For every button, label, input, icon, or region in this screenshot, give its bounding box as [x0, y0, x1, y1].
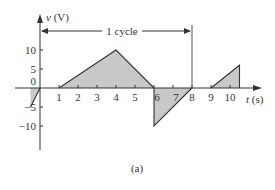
- y-tick-label: −10: [19, 120, 37, 132]
- x-axis-arrow-icon: [253, 85, 262, 91]
- x-tick-label: 7: [173, 91, 179, 103]
- x-tick-label: 1: [56, 91, 62, 103]
- x-tick-label: 6: [154, 91, 160, 103]
- y-tick-label: −5: [24, 101, 36, 113]
- x-tick-label: 3: [94, 91, 100, 103]
- waveform-chart: 123456789101050−5−10 1 cycle v (V) t (s)…: [0, 0, 275, 190]
- y-tick-label: 0: [31, 75, 37, 87]
- x-tick-label: 9: [208, 91, 214, 103]
- arrowhead-left-icon: [41, 28, 48, 34]
- figure-caption: (a): [131, 162, 144, 175]
- arrowhead-right-icon: [184, 28, 191, 34]
- x-axis-label: t (s): [246, 93, 264, 106]
- y-tick-label: 5: [31, 63, 37, 75]
- y-axis-arrow-icon: [37, 14, 43, 23]
- y-axis-label: v (V): [46, 11, 69, 24]
- y-tick-label: 10: [25, 44, 37, 56]
- x-tick-label: 8: [189, 91, 195, 103]
- x-tick-label: 4: [113, 91, 119, 103]
- x-tick-label: 2: [75, 91, 81, 103]
- x-tick-label: 10: [225, 91, 237, 103]
- x-tick-label: 5: [132, 91, 138, 103]
- cycle-label: 1 cycle: [106, 25, 138, 37]
